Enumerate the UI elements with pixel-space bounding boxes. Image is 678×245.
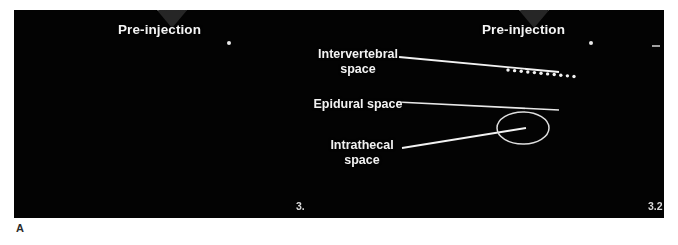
annotation-intervertebral-space: Intervertebral space	[304, 47, 412, 77]
annotation-epidural-space: Epidural space	[297, 97, 419, 112]
scan-title-left: Pre-injection	[118, 22, 201, 37]
figure-root: Pre-injection Pre-injection Intervertebr…	[0, 0, 678, 245]
annotation-intrathecal-space: Intrathecal space	[310, 138, 414, 168]
scan-corner-number-left: 3.	[296, 200, 305, 212]
figure-panel-letter: A	[16, 222, 24, 234]
scan-corner-number-right: 3.2	[648, 200, 663, 212]
scan-title-right: Pre-injection	[482, 22, 565, 37]
ultrasound-scan-canvas	[14, 10, 664, 218]
ultrasound-image-panel: Pre-injection Pre-injection Intervertebr…	[14, 10, 664, 218]
